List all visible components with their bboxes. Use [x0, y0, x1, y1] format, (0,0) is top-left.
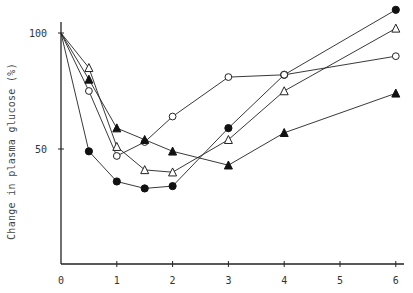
y-tick-label: 100 — [29, 28, 47, 39]
filled-circle-marker — [141, 185, 148, 192]
x-tick-label: 1 — [114, 275, 120, 286]
filled-circle-marker — [225, 125, 232, 132]
y-tick-label: 50 — [35, 144, 47, 155]
open-triangle-marker — [392, 24, 400, 32]
open-triangle-marker — [280, 87, 288, 95]
y-axis-label: Change in plasma glucose (%) — [6, 63, 17, 240]
filled-triangle-marker — [169, 147, 177, 155]
x-tick-label: 4 — [281, 275, 287, 286]
filled-triangle-marker — [280, 129, 288, 137]
open-circle-marker — [281, 71, 288, 78]
chart: 012345650100 Change in plasma glucose (%… — [0, 0, 413, 293]
open-triangle-marker — [113, 142, 121, 150]
filled-triangle-marker — [392, 89, 400, 97]
filled-triangle-marker — [113, 124, 121, 132]
open-circle-marker — [113, 153, 120, 160]
filled-circle-marker — [113, 178, 120, 185]
x-tick-label: 6 — [393, 275, 399, 286]
open-circle-marker — [169, 113, 176, 120]
open-circle-marker — [86, 88, 93, 95]
filled-triangle-marker — [224, 161, 232, 169]
series-line-filled-triangle — [61, 33, 396, 165]
x-tick-label: 5 — [337, 275, 343, 286]
open-triangle-marker — [141, 166, 149, 174]
plot-area: 012345650100 — [0, 0, 413, 293]
filled-circle-marker — [169, 183, 176, 190]
series-line-open-triangle — [61, 28, 396, 172]
filled-circle-marker — [392, 6, 399, 13]
filled-circle-marker — [85, 148, 92, 155]
x-tick-label: 0 — [58, 275, 64, 286]
x-tick-label: 3 — [225, 275, 231, 286]
x-tick-label: 2 — [170, 275, 176, 286]
open-circle-marker — [225, 74, 232, 81]
open-circle-marker — [392, 53, 399, 60]
